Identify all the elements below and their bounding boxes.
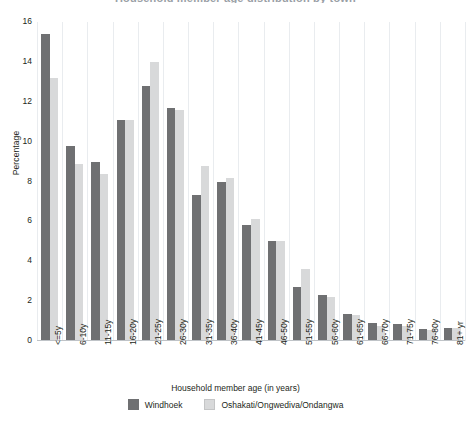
x-tick-label: 76-80y (431, 319, 440, 345)
legend-item[interactable]: Windhoek (128, 399, 183, 410)
y-tick-label: 4 (0, 256, 32, 265)
bar-group (415, 22, 440, 341)
bar[interactable] (268, 241, 277, 341)
x-tick-label: 51-55y (305, 319, 314, 345)
bar-group (138, 22, 163, 341)
bar[interactable] (75, 164, 84, 341)
x-tick-label: 16-20y (129, 319, 138, 345)
bar[interactable] (100, 174, 109, 341)
bar[interactable] (217, 182, 226, 342)
x-tick-label: 41-45y (255, 319, 264, 345)
legend-swatch-icon (204, 399, 215, 410)
bar[interactable] (226, 178, 235, 341)
y-axis-title: Percentage (11, 93, 21, 213)
bar[interactable] (167, 108, 176, 341)
x-tick-label: 21-25y (154, 319, 163, 345)
legend-swatch-icon (128, 399, 139, 410)
chart-figure: Household member age distribution by tow… (0, 0, 471, 421)
bar-group (389, 22, 414, 341)
bar[interactable] (50, 78, 59, 341)
bar-group (314, 22, 339, 341)
bar-group (213, 22, 238, 341)
bar-group (113, 22, 138, 341)
bar-group (264, 22, 289, 341)
bar-group (238, 22, 263, 341)
x-tick-label: 81+ yr (456, 321, 465, 345)
bar[interactable] (150, 62, 159, 341)
y-tick-label: 14 (0, 57, 32, 66)
x-tick-label: 71-75y (406, 319, 415, 345)
y-tick-label: 6 (0, 216, 32, 225)
bar[interactable] (293, 287, 302, 341)
x-tick-label: 26-30y (179, 319, 188, 345)
x-tick-label: 36-40y (230, 319, 239, 345)
bar[interactable] (242, 225, 251, 341)
bar[interactable] (91, 162, 100, 341)
bar[interactable] (41, 34, 50, 341)
bar-group (289, 22, 314, 341)
x-tick-label: 56-60y (331, 319, 340, 345)
bar[interactable] (393, 324, 402, 341)
bar-group (188, 22, 213, 341)
bar-group (364, 22, 389, 341)
legend-label: Windhoek (145, 400, 183, 410)
bar-group (87, 22, 112, 341)
bar-group (37, 22, 62, 341)
y-tick-label: 2 (0, 296, 32, 305)
bar[interactable] (318, 295, 327, 341)
bar-group (163, 22, 188, 341)
chart-title: Household member age distribution by tow… (0, 0, 471, 3)
bar-group (440, 22, 465, 341)
plot-area (37, 22, 465, 341)
bar[interactable] (117, 120, 126, 341)
x-axis-baseline (37, 340, 465, 341)
bar[interactable] (343, 314, 352, 341)
y-tick-label: 8 (0, 177, 32, 186)
bar[interactable] (66, 146, 75, 341)
y-tick-label: 10 (0, 137, 32, 146)
bar[interactable] (125, 120, 134, 341)
gridline (465, 22, 466, 341)
x-tick-label: 66-70y (381, 319, 390, 345)
y-tick-label: 0 (0, 336, 32, 345)
bar-group (339, 22, 364, 341)
legend: WindhoekOshakati/Ongwediva/Ondangwa (0, 399, 471, 410)
bar-group (62, 22, 87, 341)
x-tick-label: <=5y (54, 326, 63, 345)
y-tick-label: 12 (0, 97, 32, 106)
x-tick-label: 46-50y (280, 319, 289, 345)
bar[interactable] (192, 195, 201, 341)
x-tick-label: 6-10y (79, 324, 88, 345)
legend-item[interactable]: Oshakati/Ongwediva/Ondangwa (204, 399, 343, 410)
y-tick-label: 16 (0, 17, 32, 26)
x-axis-title: Household member age (in years) (0, 383, 471, 393)
bar[interactable] (368, 323, 377, 341)
bar[interactable] (142, 86, 151, 341)
legend-label: Oshakati/Ongwediva/Ondangwa (221, 400, 343, 410)
bar[interactable] (175, 110, 184, 341)
x-tick-label: 11-15y (104, 320, 113, 345)
x-tick-label: 31-35y (205, 319, 214, 345)
bar[interactable] (201, 166, 210, 341)
x-tick-label: 61-65y (356, 319, 365, 345)
